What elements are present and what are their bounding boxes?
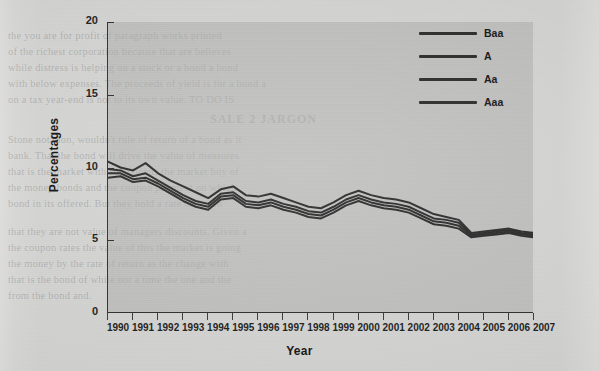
x-axis-tick-mark [458, 313, 459, 320]
x-axis-tick-label: 1993 [182, 322, 204, 333]
x-axis-tick-mark [157, 313, 158, 320]
x-axis-label: Year [0, 344, 599, 358]
x-axis-tick-mark [383, 313, 384, 320]
x-axis-tick-mark [433, 313, 434, 320]
x-axis-tick-mark [533, 313, 534, 320]
x-axis-tick-mark [232, 313, 233, 320]
x-axis-tick-label: 1992 [157, 322, 179, 333]
x-axis-tick-label: 2004 [458, 322, 480, 333]
x-axis-tick-mark [107, 313, 108, 320]
x-axis-tick-label: 1999 [332, 322, 354, 333]
x-axis-tick-label: 1996 [257, 322, 279, 333]
x-axis-tick-label: 2001 [383, 322, 405, 333]
x-axis-tick-mark [483, 313, 484, 320]
x-axis-tick-label: 1997 [282, 322, 304, 333]
x-axis-tick-label: 2003 [433, 322, 455, 333]
x-axis-tick-mark [307, 313, 308, 320]
x-axis-tick-label: 1990 [107, 322, 129, 333]
x-axis-tick-label: 2007 [533, 322, 555, 333]
x-axis-tick-mark [358, 313, 359, 320]
x-axis-tick-mark [508, 313, 509, 320]
x-axis-tick-label: 1991 [132, 322, 154, 333]
x-axis-tick-mark [282, 313, 283, 320]
x-axis-tick-mark [257, 313, 258, 320]
x-axis-tick-label: 2005 [483, 322, 505, 333]
x-axis-tick-mark [207, 313, 208, 320]
x-axis-tick-label: 2000 [357, 322, 379, 333]
x-axis-tick-mark [132, 313, 133, 320]
x-axis-tick-label: 1994 [207, 322, 229, 333]
x-axis: 1990199119921993199419951996199719981999… [0, 0, 599, 371]
x-axis-tick-label: 1998 [307, 322, 329, 333]
x-axis-tick-label: 2006 [508, 322, 530, 333]
y-axis-label: Percentages [47, 95, 61, 215]
x-axis-tick-label: 1995 [232, 322, 254, 333]
x-axis-tick-label: 2002 [408, 322, 430, 333]
x-axis-tick-mark [182, 313, 183, 320]
x-axis-tick-mark [408, 313, 409, 320]
x-axis-tick-mark [333, 313, 334, 320]
